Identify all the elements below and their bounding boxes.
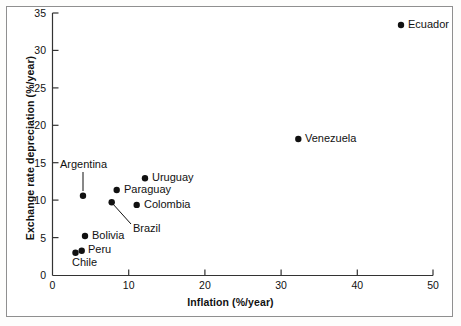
data-point-venezuela [295,136,301,142]
point-label-chile: Chile [72,256,97,268]
x-tick-label-30: 30 [266,279,296,291]
point-label-brazil: Brazil [133,222,161,234]
point-label-ecuador: Ecuador [408,18,449,30]
x-tick-label-10: 10 [114,279,144,291]
x-axis-ticks [129,270,433,276]
x-tick-label-40: 40 [342,279,372,291]
y-axis-ticks [53,13,59,238]
data-point-argentina [80,193,86,199]
point-label-argentina: Argentina [60,158,107,170]
point-label-peru: Peru [88,243,111,255]
data-point-paraguay [114,187,120,193]
point-label-colombia: Colombia [144,198,190,210]
brazil-leader-line [113,204,132,225]
x-tick-label-20: 20 [190,279,220,291]
data-point-bolivia [82,233,88,239]
x-axis-title: Inflation (%/year) [0,296,461,308]
point-label-paraguay: Paraguay [124,183,171,195]
y-axis-title: Exchange rate depreciation (%/year) [24,8,36,288]
point-label-bolivia: Bolivia [92,229,124,241]
x-tick-label-0: 0 [38,279,68,291]
data-point-colombia [134,202,140,208]
data-point-chile [72,250,78,256]
point-label-venezuela: Venezuela [305,132,356,144]
data-point-brazil [109,199,115,205]
data-point-uruguay [142,175,148,181]
data-point-ecuador [398,22,404,28]
data-point-peru [79,248,85,254]
point-label-uruguay: Uruguay [152,171,194,183]
scatter-plot-figure: 35 30 25 20 15 10 5 0 0 10 20 30 40 50 I… [0,0,461,326]
x-tick-label-50: 50 [418,279,448,291]
